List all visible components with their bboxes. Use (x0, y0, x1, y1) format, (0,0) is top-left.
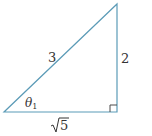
hypotenuse-label: 3 (48, 51, 56, 64)
angle-subscript: 1 (32, 102, 37, 111)
triangle-figure (0, 0, 152, 136)
adjacent-side-value: 5 (60, 119, 68, 132)
opposite-side-label: 2 (121, 52, 129, 65)
triangle-diagram: 3 2 θ1 5 (0, 0, 152, 136)
right-angle-marker (110, 105, 117, 112)
angle-label: θ1 (25, 97, 37, 111)
right-triangle-shape (4, 4, 117, 112)
